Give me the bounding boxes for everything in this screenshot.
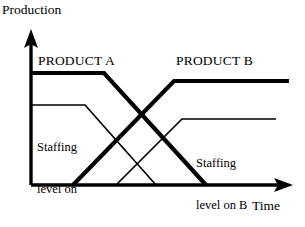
production-transition-diagram: Production Time PRODUCT A PRODUCT B Staf… xyxy=(0,0,305,227)
x-axis-label: Time xyxy=(252,199,280,213)
series-label-product-b: PRODUCT B xyxy=(176,54,253,68)
series-label-staffing-a-line2: level on xyxy=(37,182,77,196)
series-label-product-a: PRODUCT A xyxy=(38,54,115,68)
series-label-staffing-b-line2: level on B xyxy=(196,198,247,212)
series-label-staffing-a-line3: A xyxy=(37,224,77,227)
y-axis-label: Production xyxy=(2,3,61,17)
series-label-staffing-a: Staffing level on A xyxy=(37,112,77,227)
series-line-product-b xyxy=(73,81,289,185)
series-label-staffing-b-line1: Staffing xyxy=(196,156,247,170)
series-label-staffing-a-line1: Staffing xyxy=(37,140,77,154)
series-label-staffing-b: Staffing level on B xyxy=(196,128,247,227)
